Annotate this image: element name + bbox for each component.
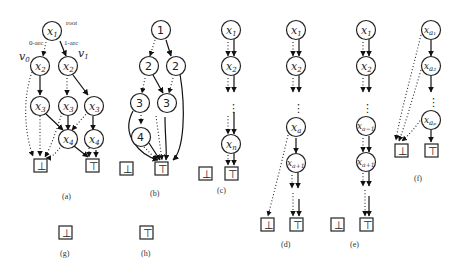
- v0-label: v0: [19, 50, 30, 64]
- node-2-b: 2: [167, 57, 186, 76]
- panel-b: 1 2 2 3 3 4 ⊥ ⊤ (b): [120, 21, 186, 199]
- svg-text:⊤: ⊤: [363, 219, 373, 232]
- node-1: 1: [152, 21, 171, 40]
- svg-text:⊥: ⊥: [264, 219, 274, 232]
- svg-text:⊤: ⊤: [228, 168, 238, 181]
- caption-c: (c): [217, 186, 226, 195]
- node-x2-v0: x2: [31, 57, 50, 76]
- svg-text:2: 2: [145, 60, 152, 73]
- node-2-a: 2: [140, 57, 159, 76]
- v1-label: v1: [78, 47, 89, 61]
- false-terminal: ⊥: [261, 218, 274, 232]
- svg-text:⊤: ⊤: [143, 227, 153, 240]
- svg-text:2: 2: [172, 60, 179, 73]
- node-3-a: 3: [131, 94, 150, 113]
- ellipsis: ⋮: [428, 96, 439, 109]
- svg-text:⊤: ⊤: [428, 145, 438, 158]
- node-x1: x1: [43, 22, 62, 41]
- svg-text:⊥: ⊥: [123, 163, 133, 176]
- false-terminal: ⊥: [395, 144, 408, 158]
- panel-h: ⊤ (h): [140, 226, 153, 258]
- panel-a: x1 x2 x2 x3 x3 x3 x4 x4: [19, 19, 104, 201]
- caption-e: (e): [350, 240, 359, 249]
- node-x1: x1: [357, 21, 376, 40]
- panel-e: ⋮ x1 x2 xa−1 xa+1 ⊥ ⊤ (e): [331, 21, 376, 250]
- node-x3-b: x3: [59, 97, 78, 116]
- node-xa: xa: [287, 118, 306, 137]
- true-terminal: ⊤: [140, 226, 153, 240]
- true-terminal: ⊤: [425, 144, 438, 158]
- svg-text:4: 4: [137, 131, 144, 144]
- node-x2: x2: [222, 57, 241, 76]
- svg-text:⊥: ⊥: [202, 168, 212, 181]
- false-terminal: ⊥: [59, 226, 72, 240]
- node-x4-b: x4: [85, 130, 104, 149]
- ellipsis: ⋮: [362, 102, 373, 115]
- caption-d: (d): [281, 240, 291, 249]
- node-4: 4: [132, 128, 151, 147]
- root-label: root: [66, 19, 77, 27]
- false-terminal: ⊥: [331, 218, 344, 232]
- node-xa2: xa₂: [422, 57, 441, 76]
- svg-text:3: 3: [163, 97, 170, 110]
- node-x1: x1: [287, 21, 306, 40]
- node-3-b: 3: [158, 94, 177, 113]
- true-terminal: ⊤: [360, 218, 373, 232]
- zero-arc-label: 0-arc: [29, 39, 43, 47]
- node-x4-a: x4: [59, 130, 78, 149]
- caption-f: (f): [414, 174, 422, 183]
- one-arc-label: 1-arc: [64, 39, 78, 47]
- false-terminal: ⊥: [120, 162, 133, 176]
- node-xap: xaₚ: [422, 111, 441, 130]
- panel-c: ⋮ x1 x2 xn ⊥ ⊤ (c): [199, 21, 241, 196]
- caption-a: (a): [62, 192, 71, 201]
- node-xa-minus-1: xa−1: [357, 117, 376, 136]
- svg-text:⊥: ⊥: [62, 227, 72, 240]
- node-x2: x2: [287, 57, 306, 76]
- node-x3-a: x3: [31, 97, 50, 116]
- svg-text:⊥: ⊥: [37, 160, 47, 173]
- node-x1: x1: [222, 21, 241, 40]
- panel-g: ⊥ (g): [59, 226, 72, 258]
- svg-text:⊥: ⊥: [398, 145, 408, 158]
- svg-text:1: 1: [157, 24, 164, 37]
- false-terminal: ⊥: [34, 159, 47, 173]
- caption-h: (h): [141, 249, 151, 258]
- node-xa-plus-1: xa+1: [357, 153, 376, 172]
- false-terminal: ⊥: [199, 167, 212, 181]
- caption-g: (g): [60, 249, 70, 258]
- svg-text:⊤: ⊤: [158, 163, 168, 176]
- svg-text:⊤: ⊤: [89, 160, 99, 173]
- node-x2-v1: x2: [59, 57, 78, 76]
- node-x2: x2: [357, 57, 376, 76]
- true-terminal: ⊤: [155, 162, 168, 176]
- svg-text:3: 3: [136, 97, 143, 110]
- caption-b: (b): [150, 189, 160, 198]
- node-xn: xn: [222, 135, 241, 154]
- bdd-figure: x1 x2 x2 x3 x3 x3 x4 x4: [0, 0, 457, 269]
- node-x3-c: x3: [85, 97, 104, 116]
- panel-d: ⋮ x1 x2 xa xa+1 ⊥ ⊤ (d): [261, 21, 306, 250]
- svg-text:⊥: ⊥: [334, 219, 344, 232]
- svg-text:⊤: ⊤: [293, 219, 303, 232]
- true-terminal: ⊤: [86, 159, 99, 173]
- panel-f: ⋮ xa₁ xa₂ xaₚ ⊥ ⊤ (f): [395, 21, 441, 184]
- node-xa-plus-1: xa+1: [287, 154, 306, 173]
- ellipsis: ⋮: [293, 102, 304, 115]
- true-terminal: ⊤: [225, 167, 238, 181]
- node-xa1: xa₁: [422, 21, 441, 40]
- true-terminal: ⊤: [290, 218, 303, 232]
